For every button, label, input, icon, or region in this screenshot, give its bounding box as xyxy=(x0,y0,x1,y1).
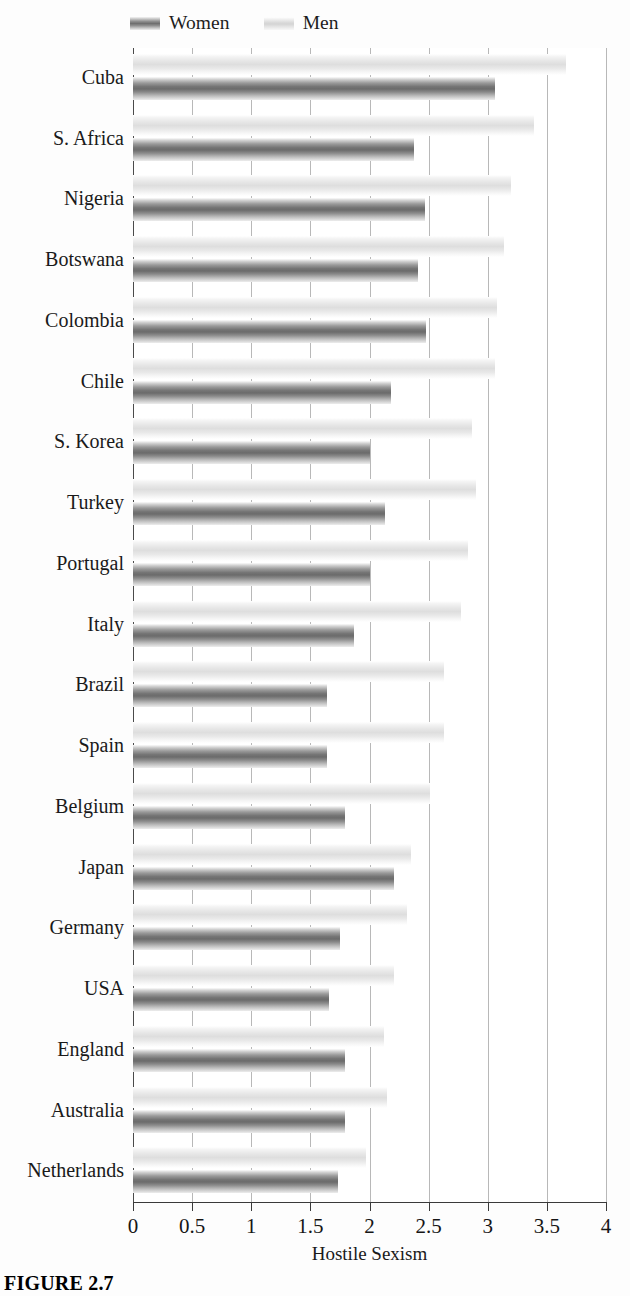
category-label: S. Africa xyxy=(0,126,124,149)
gridline-4 xyxy=(606,48,607,1202)
tick-label-7: 3.5 xyxy=(534,1214,560,1239)
bar-group xyxy=(133,783,606,838)
legend-entry-men: Men xyxy=(264,12,339,34)
legend-swatch-women-icon xyxy=(130,17,160,30)
category-label: Australia xyxy=(0,1098,124,1121)
bar-women xyxy=(133,867,394,890)
category-label: S. Korea xyxy=(0,430,124,453)
category-label: USA xyxy=(0,977,124,1000)
category-label: Italy xyxy=(0,612,124,635)
bar-group xyxy=(133,358,606,413)
bar-women xyxy=(133,927,340,950)
bar-women xyxy=(133,198,425,221)
tick-mark-8 xyxy=(606,1202,607,1211)
bar-group xyxy=(133,418,606,473)
bar-women xyxy=(133,320,426,343)
category-label: Chile xyxy=(0,369,124,392)
category-label: Cuba xyxy=(0,66,124,89)
bar-group xyxy=(133,661,606,716)
bar-women xyxy=(133,745,327,768)
bar-men xyxy=(133,236,504,257)
bar-women xyxy=(133,988,329,1011)
bar-group xyxy=(133,1026,606,1081)
chart-legend: Women Men xyxy=(0,6,630,40)
tick-label-1: 0.5 xyxy=(179,1214,205,1239)
bar-women xyxy=(133,381,391,404)
bar-group xyxy=(133,904,606,959)
tick-mark-3 xyxy=(310,1202,311,1211)
category-label: Nigeria xyxy=(0,187,124,210)
category-label: Colombia xyxy=(0,308,124,331)
bar-group xyxy=(133,844,606,899)
bar-women xyxy=(133,684,327,707)
bar-women xyxy=(133,441,370,464)
bar-group xyxy=(133,540,606,595)
bar-men xyxy=(133,54,566,75)
bar-men xyxy=(133,418,472,439)
tick-label-8: 4 xyxy=(601,1214,612,1239)
bar-women xyxy=(133,259,418,282)
bar-men xyxy=(133,297,497,318)
bar-women xyxy=(133,502,385,525)
figure-container: Women Men 00.511.522.533.54 CubaS. Afric… xyxy=(0,0,630,1296)
bar-men xyxy=(133,904,407,925)
plot-area xyxy=(133,48,606,1202)
category-label: Japan xyxy=(0,855,124,878)
bar-group xyxy=(133,479,606,534)
category-label: Belgium xyxy=(0,794,124,817)
bar-group xyxy=(133,115,606,170)
tick-label-5: 2.5 xyxy=(416,1214,442,1239)
bar-men xyxy=(133,1147,366,1168)
bar-women xyxy=(133,563,370,586)
tick-label-4: 2 xyxy=(364,1214,375,1239)
bar-men xyxy=(133,115,534,136)
bar-women xyxy=(133,624,354,647)
bar-women xyxy=(133,138,414,161)
bar-women xyxy=(133,1170,338,1193)
bar-group xyxy=(133,601,606,656)
tick-label-6: 3 xyxy=(483,1214,494,1239)
category-label: Brazil xyxy=(0,673,124,696)
bar-group xyxy=(133,965,606,1020)
bar-men xyxy=(133,479,476,500)
category-label: Spain xyxy=(0,734,124,757)
tick-mark-0 xyxy=(133,1202,134,1211)
bar-group xyxy=(133,722,606,777)
category-label: Germany xyxy=(0,916,124,939)
bar-men xyxy=(133,965,394,986)
tick-label-2: 1 xyxy=(246,1214,257,1239)
bar-men xyxy=(133,601,461,622)
bar-group xyxy=(133,1087,606,1142)
figure-caption: FIGURE 2.7 xyxy=(4,1272,114,1295)
bar-men xyxy=(133,844,411,865)
tick-mark-5 xyxy=(429,1202,430,1211)
bar-men xyxy=(133,1026,384,1047)
bar-men xyxy=(133,540,468,561)
bar-men xyxy=(133,661,444,682)
bar-women xyxy=(133,1049,345,1072)
category-label: Turkey xyxy=(0,491,124,514)
bar-men xyxy=(133,722,444,743)
bar-group xyxy=(133,1147,606,1202)
tick-mark-7 xyxy=(547,1202,548,1211)
bar-men xyxy=(133,783,430,804)
bar-men xyxy=(133,1087,387,1108)
category-label: Netherlands xyxy=(0,1159,124,1182)
x-axis-title: Hostile Sexism xyxy=(133,1243,606,1265)
bar-women xyxy=(133,1110,345,1133)
tick-label-3: 1.5 xyxy=(297,1214,323,1239)
bar-group xyxy=(133,54,606,109)
bar-women xyxy=(133,77,495,100)
legend-label-men: Men xyxy=(303,12,339,34)
bar-group xyxy=(133,297,606,352)
bar-men xyxy=(133,175,511,196)
legend-swatch-men-icon xyxy=(264,17,294,30)
category-label: Botswana xyxy=(0,248,124,271)
bar-group xyxy=(133,236,606,291)
tick-mark-2 xyxy=(251,1202,252,1211)
bar-group xyxy=(133,175,606,230)
tick-mark-4 xyxy=(370,1202,371,1211)
bar-men xyxy=(133,358,495,379)
category-label: Portugal xyxy=(0,551,124,574)
legend-label-women: Women xyxy=(169,12,230,34)
